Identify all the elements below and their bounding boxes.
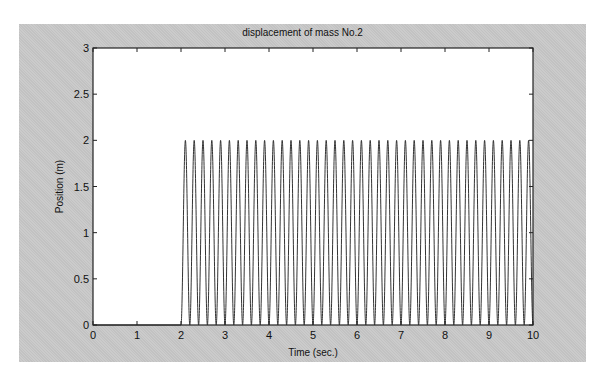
y-tick-label: 2 <box>83 134 89 146</box>
x-tick-label: 9 <box>486 329 492 341</box>
x-tick-label: 3 <box>222 329 228 341</box>
x-tick-label: 8 <box>442 329 448 341</box>
x-tick-label: 10 <box>527 329 539 341</box>
x-tick-label: 6 <box>354 329 360 341</box>
x-tick-label: 2 <box>178 329 184 341</box>
plot-area: 01234567891000.511.522.53Time (sec.)Posi… <box>19 24 586 362</box>
x-tick-label: 4 <box>266 329 272 341</box>
figure-background: displacement of mass No.2 01234567891000… <box>19 24 586 362</box>
y-tick-label: 2.5 <box>74 88 89 100</box>
x-tick-label: 7 <box>398 329 404 341</box>
y-tick-label: 0 <box>83 319 89 331</box>
axes-background <box>93 48 533 325</box>
x-tick-label: 5 <box>310 329 316 341</box>
y-tick-label: 1.5 <box>74 181 89 193</box>
y-tick-label: 0.5 <box>74 273 89 285</box>
x-axis-label: Time (sec.) <box>288 347 338 358</box>
x-tick-label: 0 <box>90 329 96 341</box>
x-tick-label: 1 <box>134 329 140 341</box>
y-tick-label: 1 <box>83 227 89 239</box>
y-tick-label: 3 <box>83 42 89 54</box>
y-axis-label: Position (m) <box>54 160 65 213</box>
